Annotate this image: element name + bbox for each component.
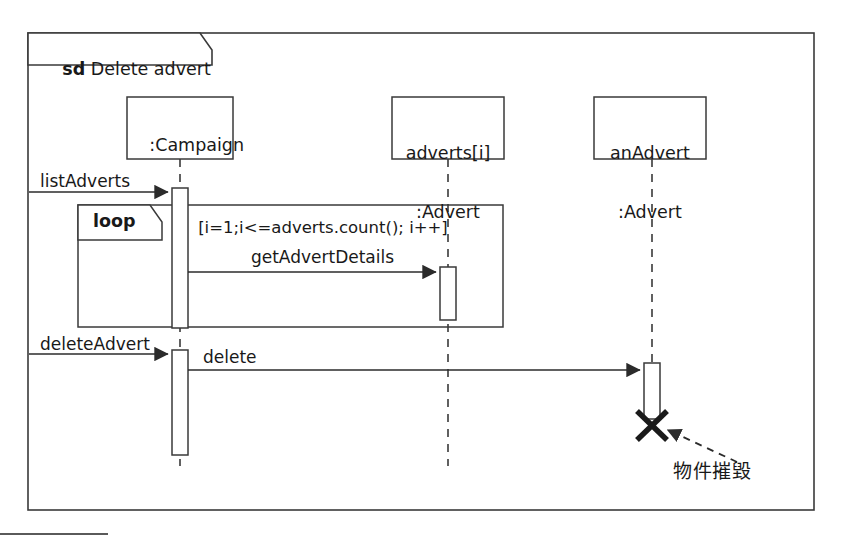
lifeline-label-campaign: :Campaign	[127, 116, 233, 175]
message-label-delete: delete	[203, 348, 257, 367]
loop-guard-condition: [i=1;i<=adverts.count(); i++]	[188, 219, 458, 237]
destruction-note-label: 物件摧毀	[673, 461, 751, 482]
activation-campaign-1	[172, 188, 188, 328]
message-label-get-advert-details: getAdvertDetails	[240, 248, 405, 267]
lifeline-label-adverts-i: adverts[i] :Advert	[392, 105, 504, 262]
lifeline-label-anadvert-line2: :Advert	[594, 203, 706, 223]
frame-kind-keyword: sd	[62, 59, 85, 79]
activation-campaign-2	[172, 350, 188, 455]
frame-title-text: Delete advert	[91, 59, 211, 79]
lifeline-label-anadvert: anAdvert :Advert	[594, 105, 706, 262]
lifeline-label-adverts-i-line1: adverts[i]	[392, 144, 504, 164]
loop-operator-label: loop	[93, 212, 136, 232]
lifeline-label-anadvert-line1: anAdvert	[594, 144, 706, 164]
message-label-delete-advert: deleteAdvert	[40, 335, 150, 354]
frame-title: sd Delete advert	[40, 40, 211, 99]
sequence-diagram: sd Delete advert :Campaign adverts[i] :A…	[0, 0, 844, 544]
lifeline-label-campaign-line1: :Campaign	[149, 135, 244, 155]
activation-anadvert	[644, 363, 660, 419]
message-label-list-adverts: listAdverts	[40, 172, 130, 191]
activation-adverts-i	[440, 267, 456, 320]
